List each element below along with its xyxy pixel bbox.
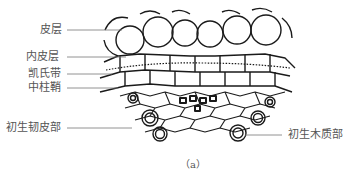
label-primary-phloem: 初生韧皮部: [6, 122, 61, 134]
pericycle-cells: [100, 70, 292, 92]
label-endodermis: 内皮层: [26, 51, 59, 63]
root-cross-section-figure: 皮层 内皮层 凯氏带 中柱鞘 初生韧皮部 初生木质部 （a）: [0, 0, 353, 179]
label-casparian-strip: 凯氏带: [28, 68, 61, 80]
label-cortex: 皮层: [40, 24, 62, 36]
label-pericycle: 中柱鞘: [28, 82, 61, 94]
casparian-strip-band: [106, 63, 290, 70]
label-primary-xylem: 初生木质部: [288, 129, 343, 141]
cortex-cells: [104, 8, 292, 56]
figure-caption: （a）: [180, 156, 206, 171]
xylem-vessels: [128, 93, 275, 141]
